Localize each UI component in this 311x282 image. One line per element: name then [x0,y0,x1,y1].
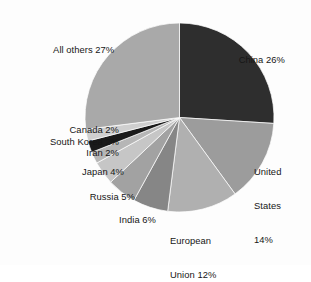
slice-label-china-text: China 26% [239,54,285,65]
slice-label-european-union: European Union 12% [170,213,216,282]
slice-label-russia-text: Russia 5% [90,191,135,202]
slice-label-canada: Canada 2% [28,113,119,147]
slice-label-china: China 26% [228,43,285,77]
slice-label-all-others: All others 27% [43,33,114,67]
slice-label-european-union-line2: Union 12% [170,269,216,280]
slice-label-united-states: United States 14% [254,144,281,267]
slice-label-india-text: India 6% [119,214,156,225]
slice-label-united-states-line1: United [254,166,281,177]
slice-label-united-states-line3: 14% [254,234,281,245]
slice-label-united-states-line2: States [254,200,281,211]
slice-label-canada-text: Canada 2% [70,124,119,135]
slice-label-all-others-text: All others 27% [53,44,114,55]
slice-label-european-union-line1: European [170,235,216,246]
